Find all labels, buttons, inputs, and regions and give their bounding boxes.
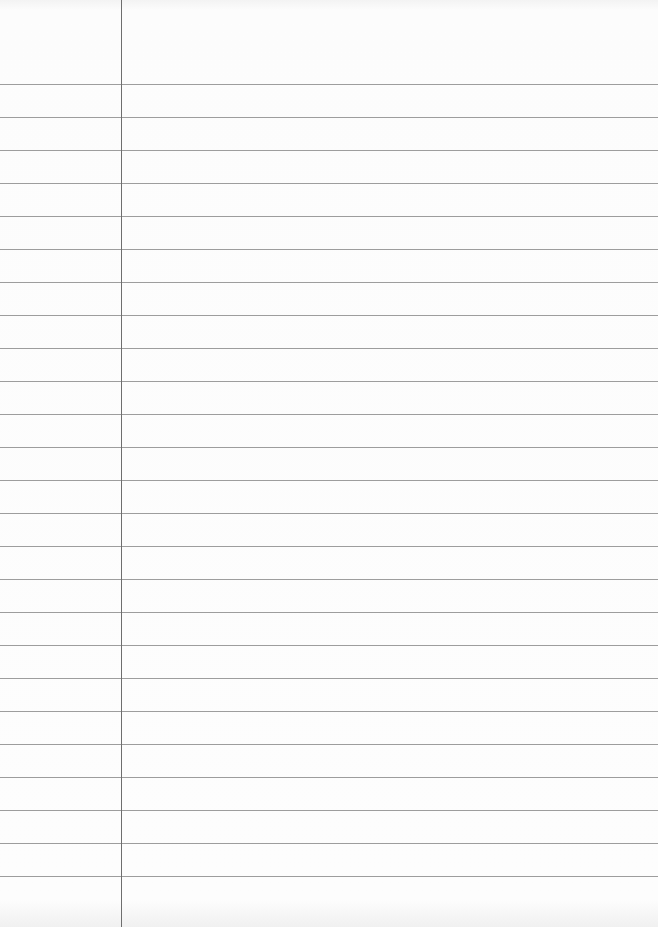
ruled-line: [0, 447, 658, 448]
ruled-line: [0, 711, 658, 712]
ruled-line: [0, 777, 658, 778]
ruled-line: [0, 282, 658, 283]
ruled-line: [0, 183, 658, 184]
ruled-line: [0, 876, 658, 877]
ruled-line: [0, 84, 658, 85]
ruled-line: [0, 249, 658, 250]
ruled-line: [0, 612, 658, 613]
ruled-line: [0, 645, 658, 646]
ruled-line: [0, 414, 658, 415]
ruled-line: [0, 348, 658, 349]
ruled-line: [0, 546, 658, 547]
ruled-line: [0, 810, 658, 811]
ruled-line: [0, 678, 658, 679]
ruled-line: [0, 315, 658, 316]
lined-paper-sheet: [0, 0, 658, 927]
ruled-line: [0, 216, 658, 217]
ruled-line: [0, 117, 658, 118]
margin-line: [121, 0, 122, 927]
ruled-line: [0, 150, 658, 151]
ruled-line: [0, 744, 658, 745]
ruled-line: [0, 843, 658, 844]
ruled-line: [0, 381, 658, 382]
ruled-line: [0, 513, 658, 514]
ruled-line: [0, 480, 658, 481]
ruled-line: [0, 579, 658, 580]
